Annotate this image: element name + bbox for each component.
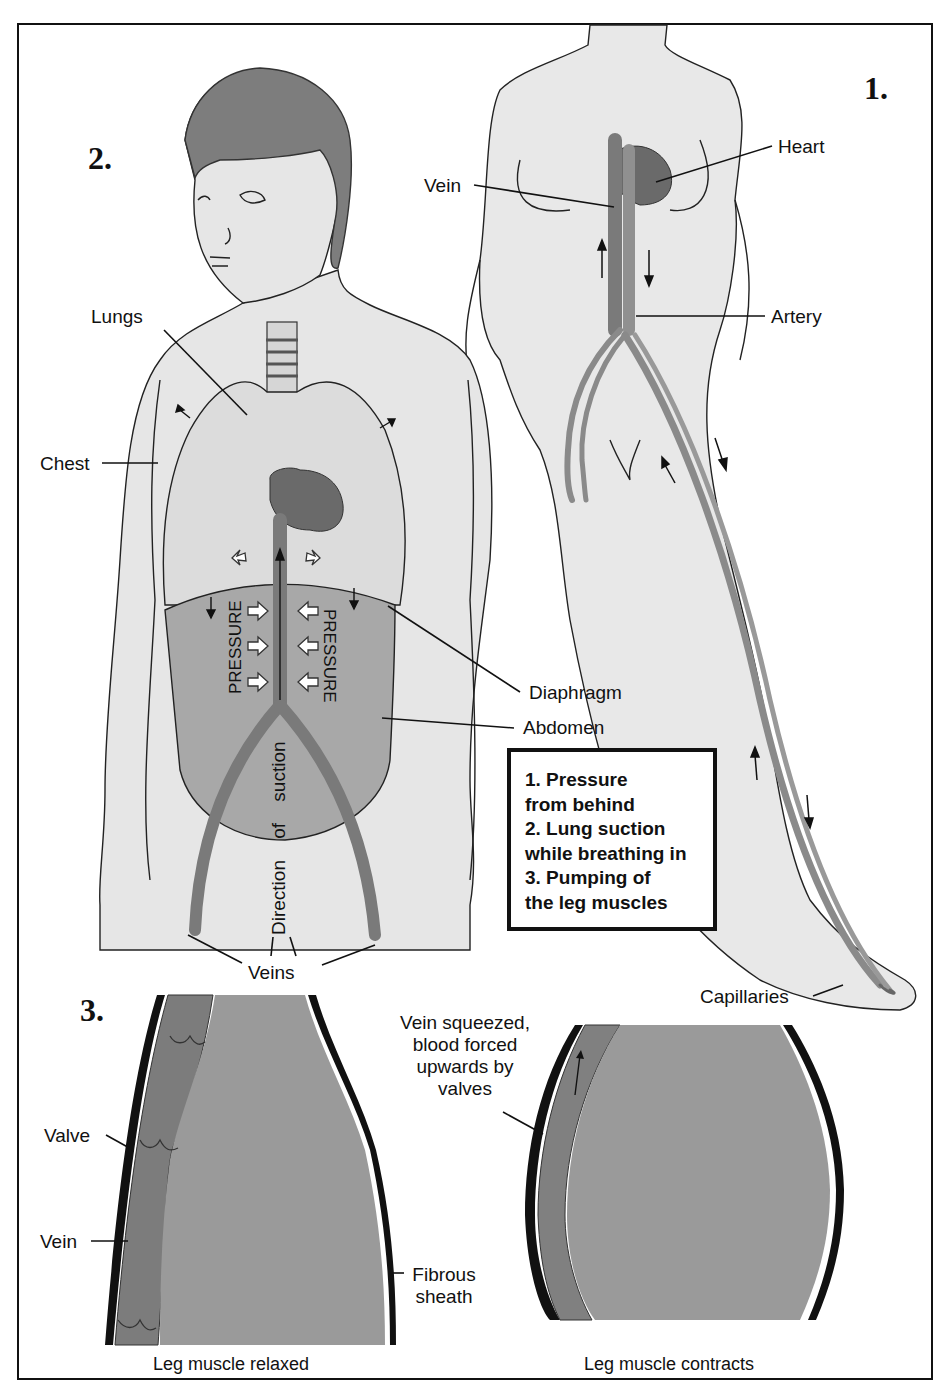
label-chest: Chest	[40, 454, 90, 473]
label-diaphragm: Diaphragm	[529, 683, 622, 702]
contracted-muscle	[525, 1025, 844, 1320]
panel-number-3: 3.	[80, 994, 104, 1026]
legend-line: 1. Pressure	[525, 768, 713, 793]
legend-line: the leg muscles	[525, 891, 713, 916]
legend-line: while breathing in	[525, 842, 713, 867]
label-valve: Valve	[44, 1126, 90, 1145]
caption-contracts: Leg muscle contracts	[584, 1355, 754, 1373]
label-pressure-right: PRESSURE	[319, 609, 339, 703]
label-veins: Veins	[248, 963, 294, 982]
label-heart: Heart	[778, 137, 824, 156]
panel-number-2: 2.	[88, 142, 112, 174]
relaxed-muscle	[105, 995, 396, 1345]
label-fibrous-sheath: Fibrous sheath	[404, 1264, 484, 1308]
label-lungs: Lungs	[91, 307, 143, 326]
panel-number-1: 1.	[864, 72, 888, 104]
caption-relaxed: Leg muscle relaxed	[153, 1355, 309, 1373]
label-capillaries: Capillaries	[700, 987, 789, 1006]
label-direction-of-suction: Direction of suction	[268, 741, 290, 935]
label-vein-panel3: Vein	[40, 1232, 77, 1251]
label-vein-squeezed: Vein squeezed, blood forced upwards by v…	[380, 1012, 550, 1100]
label-artery: Artery	[771, 307, 822, 326]
label-vein-panel1: Vein	[424, 176, 461, 195]
label-abdomen: Abdomen	[523, 718, 604, 737]
legend-box: 1. Pressure from behind 2. Lung suction …	[507, 748, 717, 931]
anatomy-illustration	[0, 0, 951, 1397]
legend-line: 3. Pumping of	[525, 866, 713, 891]
legend-line: from behind	[525, 793, 713, 818]
trachea	[266, 322, 298, 397]
legend-line: 2. Lung suction	[525, 817, 713, 842]
label-pressure-left: PRESSURE	[226, 600, 246, 694]
